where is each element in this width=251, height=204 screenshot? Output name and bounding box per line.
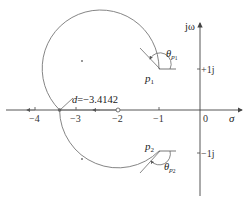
real-tick-label: 0 [203, 113, 208, 124]
locus-direction-mark-lower [81, 158, 83, 160]
theta-p1-label: θp1 [166, 48, 178, 61]
locus-direction-mark-upper [81, 60, 83, 62]
zero-marker [116, 108, 120, 112]
real-tick-label: −1 [153, 113, 164, 124]
imag-tick-label: +1j [201, 64, 214, 75]
pole-p1-label: p1 [144, 72, 155, 86]
real-tick-label: −3 [70, 113, 81, 124]
imag-axis-label: jω [184, 21, 195, 32]
imag-tick-label: −1j [201, 148, 214, 159]
root-locus-diagram: d=−3.4142 p1 θp1 p2 θp2 −4 −3 −2 −1 0 +1… [0, 0, 251, 204]
real-tick-label: −2 [112, 113, 123, 124]
breakaway-label: d=−3.4142 [72, 94, 118, 105]
real-axis-label: σ [229, 112, 235, 124]
real-tick-label: −4 [29, 113, 40, 124]
theta-p2-label: θp2 [164, 161, 176, 174]
pole-p2-label: p2 [144, 140, 155, 154]
